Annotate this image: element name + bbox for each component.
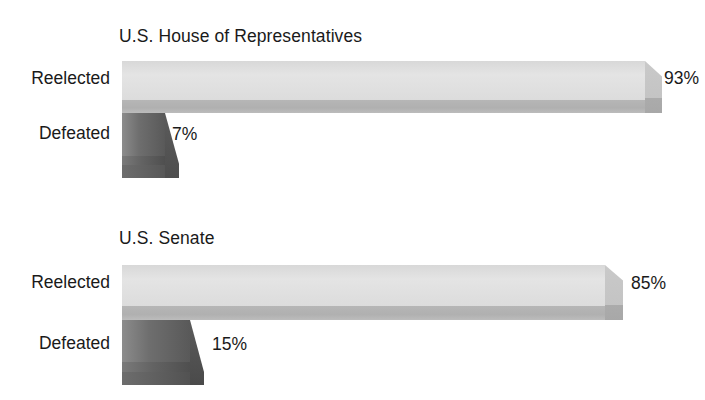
bar-house-reelected-end-bevel — [645, 61, 662, 113]
bar-base — [122, 100, 645, 113]
chart-house-of-representatives: U.S. House of Representatives Reelected … — [0, 0, 705, 200]
bar-senate-reelected-end-bevel — [605, 265, 623, 320]
bar-house-reelected — [122, 61, 645, 113]
bar-house-defeated-foot — [122, 165, 165, 178]
bar-base — [122, 156, 165, 165]
bar-face — [122, 61, 645, 100]
bar-senate-defeated-foot — [122, 372, 190, 385]
bar-senate-defeated — [122, 320, 190, 372]
value-label-house-defeated: 7% — [172, 124, 197, 145]
category-label-defeated-house: Defeated — [0, 123, 110, 144]
category-label-reelected-senate: Reelected — [0, 272, 110, 293]
chart-title-house: U.S. House of Representatives — [119, 26, 362, 47]
bar-face — [122, 265, 605, 306]
chart-senate: U.S. Senate Reelected Defeated 85% 15% — [0, 200, 705, 400]
bar-base — [122, 362, 190, 372]
bar-face — [122, 320, 190, 362]
chart-title-senate: U.S. Senate — [119, 228, 214, 249]
value-label-house-reelected: 93% — [664, 68, 699, 89]
category-label-defeated-senate: Defeated — [0, 333, 110, 354]
value-label-senate-reelected: 85% — [631, 273, 666, 294]
bar-senate-defeated-chamfer — [190, 320, 204, 385]
value-label-senate-defeated: 15% — [212, 334, 247, 355]
category-label-reelected-house: Reelected — [0, 68, 110, 89]
bar-house-defeated-chamfer — [165, 113, 179, 178]
bar-base — [122, 306, 605, 320]
bar-senate-reelected — [122, 265, 605, 320]
bar-face — [122, 113, 165, 156]
bar-house-defeated — [122, 113, 165, 165]
